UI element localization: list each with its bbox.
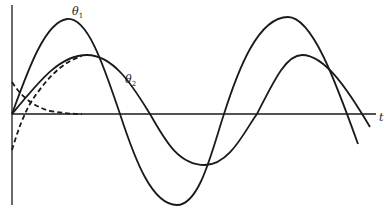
theta2-label: θ2 xyxy=(125,74,136,88)
theta1-curve xyxy=(12,17,358,205)
theta1-label: θ1 xyxy=(72,6,83,20)
diagram-canvas xyxy=(0,0,390,216)
time-axis-label: t xyxy=(379,112,383,123)
theta2-curve xyxy=(12,55,370,165)
transient-rise-curve xyxy=(12,56,82,150)
